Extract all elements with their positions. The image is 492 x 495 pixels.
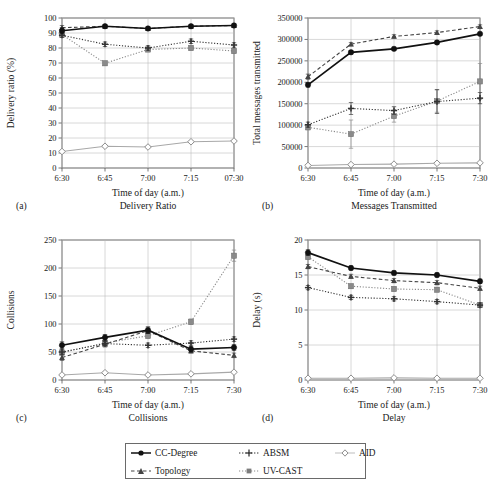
x-tick-label: 6:45 xyxy=(344,174,359,183)
x-tick-label: 6:30 xyxy=(301,386,316,395)
figure-legend: CC-Degree ABSM AID xyxy=(125,443,366,479)
y-tick-label: 100 xyxy=(44,14,57,23)
data-point-marker xyxy=(434,40,439,45)
legend-label-topology: Topology xyxy=(155,466,191,476)
x-tick-label: 7:15 xyxy=(430,386,445,395)
y-tick-label: 150 xyxy=(44,292,57,301)
x-tick-label: 7:15 xyxy=(184,174,199,183)
plot-svg: 0501001502002506:306:457:007:157:30Colli… xyxy=(0,226,246,438)
y-tick-label: 300000 xyxy=(277,35,302,44)
y-tick-label: 0 xyxy=(52,164,56,173)
panel-caption: Delivery Ratio xyxy=(120,200,177,211)
y-tick-label: 30 xyxy=(48,119,56,128)
legend-label-aid: AID xyxy=(359,448,376,458)
x-tick-label: 07:30 xyxy=(224,174,243,183)
x-axis-title: Time of day (a.m.) xyxy=(358,187,430,199)
y-tick-label: 10 xyxy=(294,306,302,315)
figure-container: 01020304050607080901006:306:457:007:1507… xyxy=(0,0,492,495)
y-tick-label: 0 xyxy=(298,164,302,173)
x-tick-label: 7:30 xyxy=(473,174,488,183)
legend-symbol-uv-cast xyxy=(238,466,260,476)
data-point-marker xyxy=(231,48,236,53)
panel-caption: Collisions xyxy=(129,412,168,423)
data-point-marker xyxy=(102,24,107,29)
data-point-marker xyxy=(477,279,482,284)
x-tick-label: 6:30 xyxy=(301,174,316,183)
y-tick-label: 100 xyxy=(44,320,57,329)
x-tick-label: 6:30 xyxy=(55,174,70,183)
data-point-marker xyxy=(145,26,150,31)
y-tick-label: 70 xyxy=(48,59,56,68)
y-tick-label: 100000 xyxy=(277,121,302,130)
data-point-marker xyxy=(145,333,150,338)
data-point-marker xyxy=(231,253,236,258)
legend-item-absm: ABSM xyxy=(238,444,330,462)
x-tick-label: 7:00 xyxy=(141,174,156,183)
x-tick-label: 7:30 xyxy=(227,386,242,395)
legend-item-topology: Topology xyxy=(130,462,238,480)
data-point-marker xyxy=(348,284,353,289)
legend-symbol-topology xyxy=(130,466,152,476)
panel-caption: Delay xyxy=(383,412,406,423)
y-tick-label: 80 xyxy=(48,44,56,53)
data-point-marker xyxy=(102,335,107,340)
y-tick-label: 0 xyxy=(52,376,56,385)
data-point-marker xyxy=(348,132,353,137)
data-point-marker xyxy=(391,270,396,275)
data-point-marker xyxy=(188,347,193,352)
y-tick-label: 40 xyxy=(48,104,56,113)
panel-letter: (b) xyxy=(262,200,273,212)
plot-svg: 051015206:306:457:007:157:30Delay (s)Tim… xyxy=(246,226,492,438)
y-tick-label: 50 xyxy=(48,348,56,357)
subplot-c: 0501001502002506:306:457:007:157:30Colli… xyxy=(0,226,246,438)
data-point-marker xyxy=(348,265,353,270)
data-point-marker xyxy=(305,250,310,255)
subplot-b: 0500001000001500002000002500003000003500… xyxy=(246,4,492,226)
data-point-marker xyxy=(231,23,236,28)
y-tick-label: 10 xyxy=(48,149,56,158)
legend-label-absm: ABSM xyxy=(263,448,289,458)
legend-item-uv-cast: UV-CAST xyxy=(238,462,330,480)
x-tick-label: 6:45 xyxy=(98,174,113,183)
data-point-marker xyxy=(348,50,353,55)
y-tick-label: 150000 xyxy=(277,100,302,109)
legend-symbol-aid xyxy=(334,448,356,458)
x-tick-label: 7:00 xyxy=(387,174,402,183)
x-tick-label: 6:45 xyxy=(344,386,359,395)
x-axis-title: Time of day (a.m.) xyxy=(112,187,184,199)
y-tick-label: 350000 xyxy=(277,14,302,23)
subplot-a: 01020304050607080901006:306:457:007:1507… xyxy=(0,4,246,226)
y-axis-title: Total messages transmitted xyxy=(251,41,262,145)
y-tick-label: 250 xyxy=(44,236,57,245)
data-point-marker xyxy=(231,345,236,350)
x-tick-label: 7:30 xyxy=(473,386,488,395)
y-axis-title: Delay (s) xyxy=(251,292,263,327)
y-tick-label: 50000 xyxy=(282,143,303,152)
y-tick-label: 50 xyxy=(48,89,56,98)
x-tick-label: 6:45 xyxy=(98,386,113,395)
data-point-marker xyxy=(188,319,193,324)
panel-letter: (d) xyxy=(262,412,273,424)
y-axis-title: Collisions xyxy=(5,290,16,329)
y-tick-label: 5 xyxy=(298,341,302,350)
x-tick-label: 7:15 xyxy=(184,386,199,395)
y-tick-label: 60 xyxy=(48,74,56,83)
data-point-marker xyxy=(477,79,482,84)
plot-svg: 01020304050607080901006:306:457:007:1507… xyxy=(0,4,246,226)
subplot-d: 051015206:306:457:007:157:30Delay (s)Tim… xyxy=(246,226,492,438)
legend-label-cc-degree: CC-Degree xyxy=(155,448,197,458)
legend-item-aid: AID xyxy=(330,444,371,462)
x-tick-label: 6:30 xyxy=(55,386,70,395)
y-tick-label: 15 xyxy=(294,271,302,280)
data-point-marker xyxy=(102,61,107,66)
y-tick-label: 20 xyxy=(294,236,302,245)
legend-symbol-cc-degree xyxy=(130,448,152,458)
legend-label-uv-cast: UV-CAST xyxy=(263,466,302,476)
data-point-marker xyxy=(434,287,439,292)
x-tick-label: 7:00 xyxy=(387,386,402,395)
y-tick-label: 200 xyxy=(44,264,57,273)
panel-letter: (c) xyxy=(16,412,27,424)
y-tick-label: 0 xyxy=(298,376,302,385)
data-point-marker xyxy=(59,28,64,33)
panel-letter: (a) xyxy=(16,200,27,212)
